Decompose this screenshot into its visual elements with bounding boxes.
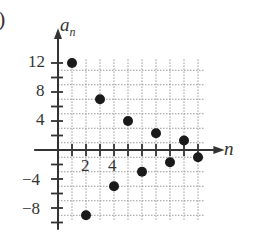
y-axis-label: an — [60, 14, 76, 40]
data-point — [95, 94, 105, 104]
data-point — [151, 128, 161, 138]
y-tick-label-neg4: −4 — [22, 170, 40, 190]
data-point — [179, 136, 189, 146]
data-point — [81, 210, 91, 220]
data-point — [123, 116, 133, 126]
data-point — [193, 152, 203, 162]
y-tick-label-12: 12 — [28, 52, 45, 72]
data-point — [109, 181, 119, 191]
y-tick-label-4: 4 — [36, 110, 45, 130]
y-tick-label-8: 8 — [36, 81, 45, 101]
y-tick-label-neg8: −8 — [22, 199, 40, 219]
x-axis-arrow-icon — [213, 146, 224, 154]
x-tick-label-4: 4 — [108, 156, 117, 176]
data-point — [137, 167, 147, 177]
data-point — [67, 58, 77, 68]
x-axis-label: n — [224, 138, 234, 160]
data-point — [165, 157, 175, 167]
x-tick-label-2: 2 — [81, 156, 90, 176]
